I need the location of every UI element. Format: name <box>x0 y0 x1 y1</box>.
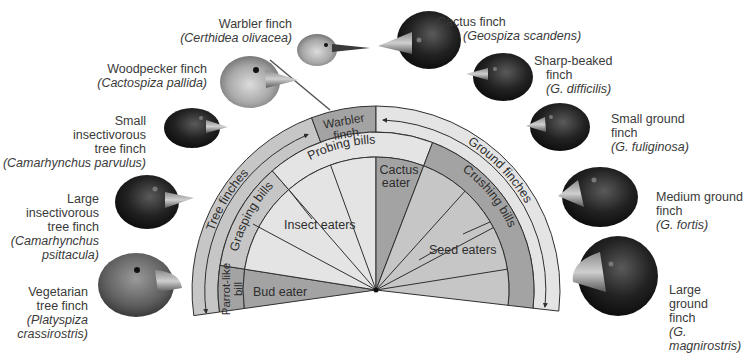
small-insectivorous-tree-finch-label: Small insectivorous tree finch (Camarhyn… <box>0 114 146 170</box>
sharp-beaked-finch-label: Sharp-beaked finch (G. difficilis) <box>534 54 654 96</box>
small-insectivorous-tree-finch-head-icon <box>164 108 228 148</box>
svg-text:Parrot-like: Parrot-like <box>220 263 232 315</box>
svg-text:eater: eater <box>382 176 411 190</box>
small-ground-finch-head-icon <box>526 103 590 151</box>
large-insectivorous-tree-finch-label: Large insectivorous tree finch (Camarhyn… <box>0 192 99 262</box>
finch-adaptive-radiation-diagram: Tree finches Ground finches Grasping bil… <box>0 0 753 353</box>
svg-text:bill: bill <box>232 282 244 296</box>
vegetarian-tree-finch-label: Vegetarian tree finch (Platyspiza crassi… <box>0 285 88 341</box>
warbler-finch-label: Warbler finch (Certhidea olivacea) <box>180 17 292 45</box>
medium-ground-finch-head-icon <box>558 167 638 227</box>
medium-ground-finch-label: Medium ground finch (G. fortis) <box>656 190 753 232</box>
woodpecker-finch-label: Woodpecker finch (Cactospiza pallida) <box>92 62 207 90</box>
woodpecker-finch-head-icon <box>220 56 298 108</box>
cactus-finch-label: Cactus finch (Geospiza scandens) <box>437 15 597 43</box>
small-ground-finch-label: Small ground finch (G. fuliginosa) <box>611 112 731 154</box>
svg-text:Cactus: Cactus <box>380 163 419 177</box>
large-ground-finch-label: Large ground finch (G. magnirostris) <box>669 283 753 353</box>
seed-eaters-label: Seed eaters <box>429 243 496 257</box>
sharp-beaked-finch-head-icon <box>466 53 533 101</box>
large-insectivorous-tree-finch-head-icon <box>115 175 194 229</box>
beak-diet-fan-chart: Tree finches Ground finches Grasping bil… <box>0 0 753 353</box>
warbler-finch-head-icon <box>297 34 370 66</box>
vegetarian-tree-finch-head-icon <box>98 253 182 317</box>
large-ground-finch-head-icon <box>573 236 658 316</box>
fan-center-dot <box>374 288 379 293</box>
insect-eaters-label: Insect eaters <box>284 218 356 232</box>
bud-eater-label: Bud eater <box>253 285 307 299</box>
